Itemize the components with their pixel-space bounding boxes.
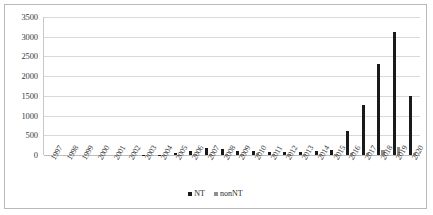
y-tick-label: 1000 <box>21 111 38 121</box>
chart-container: 3500300025002000150010005000 19971998199… <box>4 4 427 209</box>
x-tick-cell: 2018 <box>373 155 389 193</box>
bar-group <box>295 17 311 155</box>
x-tick-cell: 2012 <box>279 155 295 193</box>
bar-group <box>357 17 373 155</box>
x-tick-cell: 2003 <box>137 155 153 193</box>
y-tick-label: 3000 <box>21 32 38 42</box>
x-tick-cell: 2008 <box>216 155 232 193</box>
chart-plot-wrapper: 3500300025002000150010005000 19971998199… <box>5 5 426 208</box>
bar-group <box>122 17 138 155</box>
y-tick-label: 3500 <box>21 12 38 22</box>
bar-group <box>60 17 76 155</box>
bar-group <box>263 17 279 155</box>
bar-group <box>389 17 405 155</box>
x-tick-cell: 1997 <box>43 155 59 193</box>
legend-swatch-icon <box>188 192 192 196</box>
x-tick-cell: 2007 <box>200 155 216 193</box>
x-tick-cell: 2019 <box>388 155 404 193</box>
y-tick-label: 2500 <box>21 51 38 61</box>
chart-legend: NTnonNT <box>5 189 426 198</box>
legend-entry-nt[interactable]: NT <box>188 189 205 198</box>
x-tick-cell: 2006 <box>184 155 200 193</box>
x-tick-cell: 2013 <box>294 155 310 193</box>
bar-group <box>169 17 185 155</box>
bar-nt-2018 <box>377 64 380 155</box>
x-tick-cell: 2005 <box>169 155 185 193</box>
bar-group <box>138 17 154 155</box>
x-tick-cell: 2015 <box>326 155 342 193</box>
bar-group <box>185 17 201 155</box>
bar-group <box>232 17 248 155</box>
bar-group <box>279 17 295 155</box>
bar-group <box>107 17 123 155</box>
bar-group <box>310 17 326 155</box>
bar-nt-2020 <box>409 96 412 155</box>
bar-group <box>44 17 60 155</box>
x-tick-cell: 2010 <box>247 155 263 193</box>
legend-entry-nonnt[interactable]: nonNT <box>214 189 243 198</box>
x-axis: 1997199819992000200120022003200420052006… <box>43 155 420 193</box>
x-tick-cell: 1999 <box>74 155 90 193</box>
bar-group <box>154 17 170 155</box>
x-tick-cell: 2009 <box>231 155 247 193</box>
legend-swatch-icon <box>214 192 218 196</box>
x-tick-cell: 2014 <box>310 155 326 193</box>
bar-group <box>326 17 342 155</box>
y-tick-label: 1500 <box>21 91 38 101</box>
x-tick-cell: 2000 <box>90 155 106 193</box>
x-tick-cell: 2004 <box>153 155 169 193</box>
y-tick-label: 2000 <box>21 71 38 81</box>
bar-nt-2019 <box>393 32 396 155</box>
x-tick-cell: 2020 <box>404 155 420 193</box>
bar-nt-2016 <box>346 131 349 155</box>
x-tick-cell: 2017 <box>357 155 373 193</box>
y-tick-label: 500 <box>26 130 38 140</box>
bar-group <box>373 17 389 155</box>
bar-group <box>342 17 358 155</box>
bar-group <box>248 17 264 155</box>
legend-label: NT <box>194 189 205 198</box>
bar-group <box>404 17 420 155</box>
y-tick-label: 0 <box>34 150 38 160</box>
x-tick-cell: 2002 <box>122 155 138 193</box>
x-tick-cell: 1998 <box>59 155 75 193</box>
x-tick-cell: 2011 <box>263 155 279 193</box>
x-tick-cell: 2001 <box>106 155 122 193</box>
y-axis: 3500300025002000150010005000 <box>5 5 41 208</box>
plot-area <box>43 17 420 155</box>
bar-group <box>91 17 107 155</box>
legend-label: nonNT <box>220 189 243 198</box>
x-tick-cell: 2016 <box>341 155 357 193</box>
bar-group <box>201 17 217 155</box>
bars-layer <box>44 17 420 155</box>
bar-group <box>216 17 232 155</box>
bar-group <box>75 17 91 155</box>
